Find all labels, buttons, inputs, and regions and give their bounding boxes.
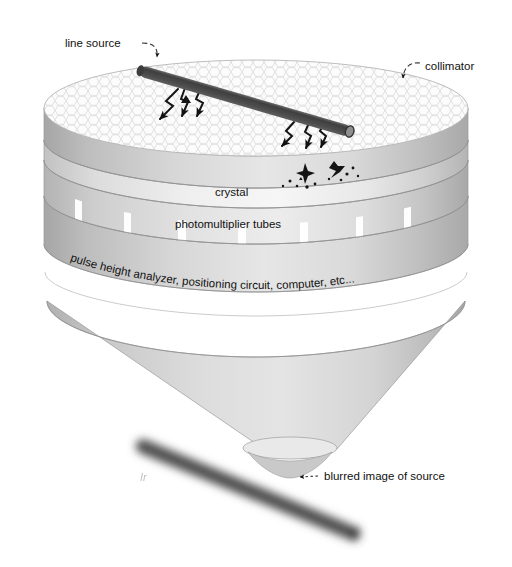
svg-text:Ir: Ir xyxy=(140,471,148,483)
line-source-label: line source xyxy=(65,37,121,49)
line-source-leader xyxy=(142,43,157,57)
gamma-camera-diagram: Ir line source collimator crystal photom… xyxy=(0,0,512,567)
faint-mark: Ir xyxy=(140,471,148,483)
crystal-label: crystal xyxy=(215,186,248,198)
label-blurred-image: blurred image of source xyxy=(300,470,445,482)
label-line-source: line source xyxy=(65,37,157,57)
collimator-label: collimator xyxy=(425,60,474,72)
blurred-image-leader xyxy=(300,476,318,477)
funnel-cone xyxy=(47,300,465,478)
figure-canvas: Ir line source collimator crystal photom… xyxy=(0,0,512,567)
blurred-image-label: blurred image of source xyxy=(324,470,445,482)
label-collimator: collimator xyxy=(403,60,474,78)
pmt-label: photomultiplier tubes xyxy=(175,218,281,230)
